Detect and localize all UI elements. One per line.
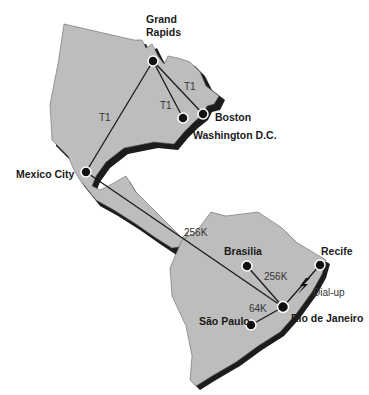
label-boston: Boston [215,111,251,123]
link-label-256k-mexico-rio: 256K [184,227,208,238]
node-grand-rapids[interactable] [148,56,158,66]
link-label-dialup: Dial-up [313,287,345,298]
node-recife[interactable] [315,260,325,270]
node-washington[interactable] [178,113,188,123]
label-grand-rapids-2: Rapids [146,26,181,38]
node-rio[interactable] [278,302,289,313]
label-grand-rapids-1: Grand [146,13,177,25]
node-brasilia[interactable] [242,261,252,271]
link-label-64k: 64K [249,303,267,314]
link-label-256k-brasilia-rio: 256K [264,271,288,282]
label-brasilia: Brasilia [224,245,262,257]
link-label-t1-mexico: T1 [99,112,111,123]
label-sao-paulo: São Paulo [199,315,250,327]
link-label-t1-boston: T1 [184,81,196,92]
network-map: Grand Rapids Boston Washington D.C. Mexi… [0,0,369,395]
link-label-t1-washington: T1 [160,100,172,111]
label-recife: Recife [321,245,353,257]
label-mexico-city: Mexico City [16,168,75,180]
label-rio: Rio de Janeiro [291,312,363,324]
node-mexico-city[interactable] [81,167,91,177]
label-washington: Washington D.C. [193,129,277,141]
node-boston[interactable] [198,109,208,119]
